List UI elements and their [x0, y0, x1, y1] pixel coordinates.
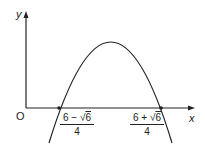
root-right-denominator: 4	[130, 125, 164, 137]
root-point-right	[159, 106, 163, 110]
y-axis-label: y	[16, 9, 22, 20]
root-left-denominator: 4	[60, 125, 94, 137]
root-left-numerator: 6 − √	[63, 112, 85, 123]
root-right-numerator: 6 + √	[133, 112, 155, 123]
root-point-left	[57, 106, 61, 110]
graph-canvas	[0, 0, 205, 152]
origin-label: O	[16, 111, 25, 122]
x-axis-label: x	[189, 113, 195, 124]
y-axis	[24, 11, 29, 108]
root-right-radicand: 6	[155, 112, 161, 123]
root-left-radicand: 6	[85, 112, 91, 123]
root-label-left: 6 − √6 4	[60, 112, 94, 137]
x-axis	[26, 106, 195, 111]
root-label-right: 6 + √6 4	[130, 112, 164, 137]
